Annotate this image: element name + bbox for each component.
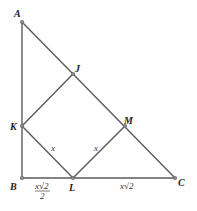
label-J: J	[74, 63, 81, 74]
label-M: M	[123, 115, 134, 126]
label-K: K	[9, 121, 18, 132]
segment-KL	[22, 126, 73, 178]
segment-LM	[73, 126, 125, 178]
label-C: C	[178, 177, 185, 188]
label-BL-denominator: 2	[40, 191, 45, 201]
point-C	[173, 176, 177, 180]
point-K	[20, 124, 24, 128]
geometry-diagram: A B C J K L M x x x√2 2 x√2	[0, 0, 197, 211]
label-A: A	[13, 8, 21, 19]
label-KL-length: x	[50, 143, 55, 153]
label-L: L	[68, 182, 75, 193]
segment-AC	[22, 22, 175, 178]
point-L	[71, 176, 75, 180]
label-LC-length: x√2	[119, 181, 134, 191]
point-B	[20, 176, 24, 180]
label-BL-numerator: x√2	[34, 181, 49, 191]
label-LM-length: x	[93, 143, 98, 153]
point-A	[20, 20, 24, 24]
segment-KJ	[22, 74, 73, 126]
label-B: B	[9, 181, 17, 192]
